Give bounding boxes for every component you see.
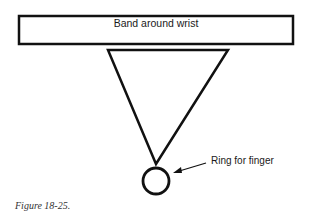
arrow-icon	[173, 163, 206, 173]
figure-caption: Figure 18-25.	[15, 200, 70, 211]
finger-ring	[143, 168, 169, 194]
wrist-band-diagram	[0, 0, 309, 214]
strap-triangle	[108, 50, 228, 164]
band-label: Band around wrist	[18, 17, 294, 29]
ring-label: Ring for finger	[211, 155, 274, 166]
